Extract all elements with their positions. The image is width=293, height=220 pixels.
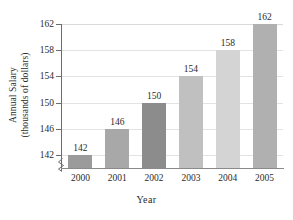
bar [142,103,166,168]
y-axis-tick-label: 162 [24,19,54,29]
x-axis-tick-label: 2005 [247,173,283,184]
x-axis-tick-label: 2004 [210,173,246,184]
bar-value-label: 158 [212,38,244,48]
bar [68,155,92,168]
y-axis-tick-labels: 142146150154158162 [20,0,54,220]
bar-chart-figure: Annual Salary (thousands of dollars) 142… [0,0,293,220]
bar [179,76,203,168]
y-axis-tick-label: 154 [24,71,54,81]
y-axis-tick-label: 142 [24,150,54,160]
bar [253,24,277,168]
gridline [62,24,283,25]
y-axis-title-line1: Annual Salary [8,52,20,137]
x-axis-title: Year [0,194,293,206]
bar-value-label: 142 [64,143,96,153]
bar-value-label: 150 [138,91,170,101]
bar-value-label: 154 [175,64,207,74]
gridline [62,155,283,156]
gridline [62,76,283,77]
y-axis-tick-label: 158 [24,45,54,55]
gridline [62,50,283,51]
y-axis-tick-label: 146 [24,124,54,134]
bar [216,50,240,168]
y-axis-tick-label: 150 [24,98,54,108]
x-axis-tick-label: 2003 [173,173,209,184]
gridline [62,129,283,130]
bar [105,129,129,168]
x-axis-tick-label: 2002 [136,173,172,184]
gridline [62,103,283,104]
bar-value-label: 162 [249,12,281,22]
x-axis-tick-label: 2001 [99,173,135,184]
x-axis-tick-label: 2000 [62,173,98,184]
bar-value-label: 146 [101,117,133,127]
x-axis-line [61,168,284,169]
